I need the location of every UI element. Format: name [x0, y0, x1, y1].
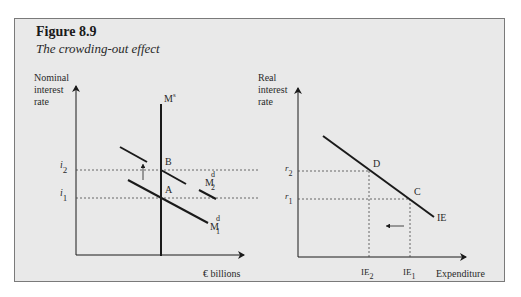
- right-y-axis-label: Real interest rate: [258, 72, 290, 107]
- ie-curve-label: IE: [437, 212, 446, 223]
- left-x-axis-label: € billions: [203, 268, 241, 279]
- point-a-label: A: [165, 184, 173, 195]
- money-demand-2-segment: [161, 170, 186, 184]
- point-d-label: D: [373, 158, 380, 169]
- point-b-label: B: [165, 156, 172, 167]
- right-panel: Real interest rate Expenditure r2 r1 IE …: [258, 72, 485, 281]
- left-y-axis-label: Nominal interest rate: [34, 72, 72, 107]
- tick-r1: r1: [285, 191, 293, 206]
- point-c-label: C: [414, 186, 421, 197]
- right-x-axis-label: Expenditure: [436, 268, 485, 279]
- money-demand-2-upper-segment: [120, 147, 147, 162]
- tick-i1: i1: [60, 187, 67, 203]
- tick-ie2: IE2: [361, 267, 374, 281]
- tick-ie1: IE1: [403, 267, 416, 281]
- tick-i2: i2: [60, 159, 67, 175]
- investment-expenditure-curve: [323, 136, 434, 217]
- money-demand-1-label: Md1: [210, 214, 220, 236]
- money-demand-2-label: Md2: [205, 170, 215, 192]
- money-supply-label: Ms: [164, 91, 176, 104]
- tick-r2: r2: [285, 163, 293, 178]
- left-panel: Nominal interest rate € billions i2 i1 M…: [34, 72, 260, 279]
- crowding-out-diagram: Nominal interest rate € billions i2 i1 M…: [0, 0, 521, 297]
